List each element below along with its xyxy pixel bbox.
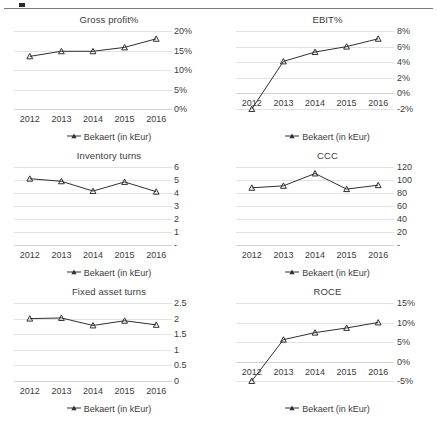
x-axis-tick-label: 2012 [14, 251, 46, 260]
y-axis-tick-label: 100 [397, 176, 412, 185]
x-axis: 20122013201420152016 [236, 368, 394, 377]
series-layer [236, 31, 394, 109]
chart-title: Gross profit% [0, 14, 218, 25]
plot-area [14, 303, 172, 381]
y-axis: 20%15%10%5%0% [174, 31, 210, 109]
y-axis-tick-label: 0 [174, 377, 179, 386]
x-axis-tick-label: 2012 [14, 115, 46, 124]
y-axis-tick-label: -2% [397, 105, 413, 114]
x-axis-tick-label: 2015 [109, 387, 141, 396]
legend-label: Bekaert (in kEur) [302, 132, 370, 142]
x-axis: 20122013201420152016 [236, 99, 394, 108]
y-axis-tick-label: 1 [174, 228, 179, 237]
legend-label: Bekaert (in kEur) [84, 132, 152, 142]
gridline [236, 109, 394, 110]
line-series [14, 303, 172, 381]
chart-panel-ebit: EBIT% 8%6%4%2%0%-2% 20122013201420152016… [218, 12, 437, 148]
x-axis-tick-label: 2016 [362, 99, 394, 108]
chart-title: EBIT% [218, 14, 437, 25]
gridline [236, 245, 394, 246]
y-axis-tick-label: 5% [397, 338, 410, 347]
legend-marker-icon [67, 404, 81, 414]
y-axis-tick-label: 4 [174, 189, 179, 198]
y-axis-tick-label: 0% [174, 105, 187, 114]
y-axis-tick-label: 20 [397, 228, 407, 237]
y-axis: 8%6%4%2%0%-2% [397, 31, 433, 109]
plot-area [14, 31, 172, 109]
y-axis-tick-label: 0.5 [174, 361, 187, 370]
x-axis-tick-label: 2013 [268, 368, 300, 377]
x-axis-tick-label: 2013 [46, 387, 78, 396]
chart-legend: Bekaert (in kEur) [218, 131, 437, 142]
x-axis-tick-label: 2012 [236, 251, 268, 260]
chart-legend: Bekaert (in kEur) [0, 403, 218, 414]
x-axis: 20122013201420152016 [236, 251, 394, 260]
legend-label: Bekaert (in kEur) [302, 268, 370, 278]
x-axis-tick-label: 2016 [140, 251, 172, 260]
legend-marker-icon [285, 268, 299, 278]
x-axis-tick-label: 2012 [236, 99, 268, 108]
legend-marker-icon [67, 268, 81, 278]
chart-legend: Bekaert (in kEur) [218, 403, 437, 414]
chart-panel-fixed-asset-turns: Fixed asset turns 2.521.510.50 201220132… [0, 284, 218, 421]
series-layer [14, 31, 172, 109]
x-axis-tick-label: 2014 [299, 251, 331, 260]
y-axis-tick-label: 2 [174, 314, 179, 323]
x-axis-tick-label: 2016 [140, 387, 172, 396]
y-axis-tick-label: 3 [174, 202, 179, 211]
y-axis-tick-label: 6 [174, 163, 179, 172]
x-axis-tick-label: 2014 [299, 99, 331, 108]
x-axis: 20122013201420152016 [14, 115, 172, 124]
x-axis: 20122013201420152016 [14, 251, 172, 260]
plot-area [236, 167, 394, 245]
x-axis-tick-label: 2014 [77, 115, 109, 124]
legend-label: Bekaert (in kEur) [84, 268, 152, 278]
data-point-marker [375, 320, 381, 325]
chart-panel-gross-profit: Gross profit% 20%15%10%5%0% 201220132014… [0, 12, 218, 148]
y-axis-tick-label: 20% [174, 27, 192, 36]
chart-legend: Bekaert (in kEur) [218, 267, 437, 278]
x-axis-tick-label: 2016 [362, 251, 394, 260]
x-axis-tick-label: 2015 [109, 251, 141, 260]
legend-label: Bekaert (in kEur) [84, 404, 152, 414]
x-axis-tick-label: 2015 [331, 251, 363, 260]
y-axis-tick-label: -5% [397, 377, 413, 386]
y-axis-tick-label: 0% [397, 89, 410, 98]
x-axis: 20122013201420152016 [14, 387, 172, 396]
gridline [14, 245, 172, 246]
legend-marker-icon [285, 404, 299, 414]
y-axis-tick-label: 15% [397, 299, 415, 308]
header-divider [4, 8, 433, 9]
x-axis-tick-label: 2012 [14, 387, 46, 396]
data-point-marker [375, 36, 381, 41]
chart-panel-roce: ROCE 15%10%5%0%-5% 20122013201420152016 … [218, 284, 437, 421]
y-axis-tick-label: 60 [397, 202, 407, 211]
x-axis-tick-label: 2014 [77, 251, 109, 260]
y-axis-tick-label: 5 [174, 176, 179, 185]
y-axis: 12010080604020- [397, 167, 433, 245]
chart-panel-ccc: CCC 12010080604020- 20122013201420152016… [218, 148, 437, 284]
gridline [236, 381, 394, 382]
y-axis-tick-label: 40 [397, 215, 407, 224]
y-axis-tick-label: 5% [174, 85, 187, 94]
y-axis-tick-label: 1.5 [174, 330, 187, 339]
line-series [14, 31, 172, 109]
legend-marker-icon [285, 132, 299, 142]
y-axis-tick-label: 10% [174, 66, 192, 75]
y-axis: 2.521.510.50 [174, 303, 210, 381]
gridline [14, 381, 172, 382]
y-axis-tick-label: 0% [397, 357, 410, 366]
y-axis-tick-label: 120 [397, 163, 412, 172]
x-axis-tick-label: 2013 [268, 99, 300, 108]
legend-label: Bekaert (in kEur) [302, 404, 370, 414]
x-axis-tick-label: 2012 [236, 368, 268, 377]
chart-title: ROCE [218, 286, 437, 297]
x-axis-tick-label: 2015 [331, 368, 363, 377]
chart-title: CCC [218, 150, 437, 161]
y-axis-tick-label: 4% [397, 58, 410, 67]
x-axis-tick-label: 2015 [109, 115, 141, 124]
y-axis: 654321- [174, 167, 210, 245]
data-point-marker [153, 36, 159, 41]
y-axis-tick-label: 8% [397, 27, 410, 36]
y-axis-tick-label: - [174, 241, 177, 250]
